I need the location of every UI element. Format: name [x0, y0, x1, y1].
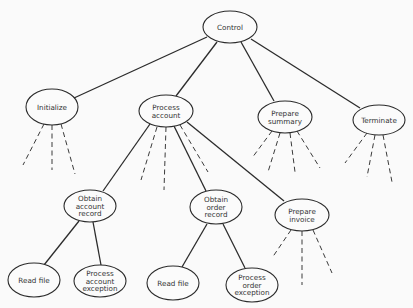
- node-label: exception: [234, 288, 269, 297]
- node-prepare-summary: Preparesummary: [258, 101, 312, 133]
- unexpanded-edge-initialize: [23, 124, 44, 165]
- node-label: summary: [268, 117, 303, 126]
- edge-obtain-order-record-to-read-file-2: [182, 224, 207, 267]
- node-label: Control: [217, 23, 243, 32]
- edge-obtain-account-record-to-process-account-exception: [93, 222, 101, 265]
- node-obtain-account-record: Obtainaccountrecord: [64, 190, 116, 222]
- structure-chart: ControlInitializeProcessaccountPreparesu…: [0, 0, 413, 308]
- unexpanded-edge-prepare-invoice: [272, 230, 291, 258]
- node-initialize: Initialize: [26, 89, 78, 125]
- edge-control-to-terminate: [251, 39, 360, 108]
- node-label: account: [152, 111, 181, 120]
- node-label: Terminate: [360, 116, 397, 125]
- node-label: Read file: [157, 279, 189, 288]
- node-process-account-exception: Processaccountexception: [74, 265, 126, 297]
- unexpanded-edge-prepare-invoice: [313, 230, 332, 273]
- unexpanded-edge-process-account: [180, 125, 208, 172]
- unexpanded-edge-initialize: [61, 124, 75, 174]
- node-prepare-invoice: Prepareinvoice: [275, 199, 329, 231]
- unexpanded-edge-process-account: [141, 127, 157, 180]
- unexpanded-edge-terminate: [383, 135, 392, 182]
- node-terminate: Terminate: [353, 105, 405, 135]
- node-process-order-exception: Processorderexception: [226, 268, 278, 302]
- edges-layer: [23, 37, 392, 285]
- node-control: Control: [203, 11, 257, 43]
- unexpanded-edge-process-account: [164, 127, 166, 190]
- node-process-account: Processaccount: [139, 95, 193, 127]
- unexpanded-edge-prepare-summary: [252, 131, 272, 158]
- node-read-file-1: Read file: [8, 263, 60, 297]
- node-label: Read file: [18, 276, 50, 285]
- node-read-file-2: Read file: [147, 266, 199, 300]
- unexpanded-edge-terminate: [367, 135, 375, 177]
- edge-process-account-to-obtain-account-record: [103, 124, 150, 191]
- edge-obtain-order-record-to-process-order-exception: [223, 224, 245, 268]
- nodes-layer: ControlInitializeProcessaccountPreparesu…: [8, 11, 405, 302]
- edge-obtain-account-record-to-read-file-1: [44, 221, 79, 265]
- unexpanded-edge-prepare-summary: [268, 133, 280, 172]
- node-label: invoice: [289, 215, 315, 224]
- node-label: Initialize: [37, 103, 68, 112]
- edge-control-to-process-account: [176, 42, 217, 96]
- node-label: exception: [82, 284, 117, 293]
- node-label: record: [79, 209, 102, 218]
- unexpanded-edge-terminate: [345, 133, 367, 163]
- node-obtain-order-record: Obtainorderrecord: [190, 190, 242, 224]
- unexpanded-edge-prepare-summary: [297, 131, 320, 168]
- unexpanded-edge-prepare-summary: [290, 133, 295, 172]
- node-label: record: [205, 210, 228, 219]
- edge-process-account-to-obtain-order-record: [174, 126, 206, 191]
- edge-control-to-initialize: [74, 37, 207, 98]
